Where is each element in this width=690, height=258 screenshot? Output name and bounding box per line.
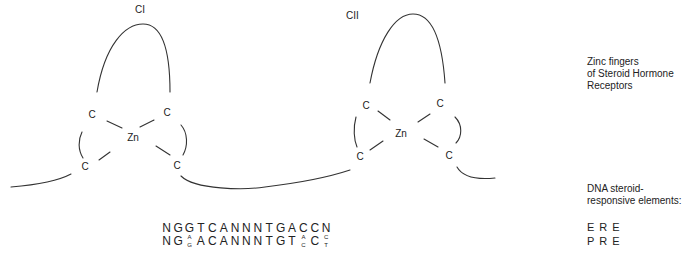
finger-ci-zinc: Zn	[127, 133, 139, 143]
sequence-pre: NGAGACANNNTGTACCCT	[161, 235, 332, 249]
base: N	[161, 222, 172, 234]
ambiguous-base: AG	[184, 234, 195, 248]
finger-cii-loop	[370, 14, 445, 83]
finger-cii-label: CII	[346, 11, 359, 21]
base: N	[229, 222, 240, 234]
element-tag-pre: PRE	[587, 236, 625, 247]
base: A	[218, 222, 229, 234]
ambiguous-base: AC	[298, 234, 309, 248]
base: N	[229, 235, 240, 247]
finger-cii-zinc: Zn	[395, 129, 407, 139]
base: N	[241, 235, 252, 247]
base: C	[298, 222, 309, 234]
base: G	[275, 222, 286, 234]
finger-ci-label: CI	[135, 5, 145, 15]
zinc-fingers-caption: Zinc fingers of Steroid Hormone Receptor…	[587, 56, 674, 92]
sequence-ere: NGGTCANNNTGACCN	[161, 222, 332, 234]
finger-cii-cysteine-2: C	[436, 99, 443, 109]
base: C	[309, 235, 320, 247]
finger-ci-cysteine-2: C	[163, 108, 170, 118]
base: N	[320, 222, 331, 234]
base: G	[184, 222, 195, 234]
base: C	[309, 222, 320, 234]
base: A	[218, 235, 229, 247]
finger-ci-cysteine-3: C	[81, 162, 88, 172]
base: T	[286, 235, 297, 247]
zinc-finger-diagram	[0, 0, 690, 258]
finger-cii-cysteine-3: C	[356, 152, 363, 162]
base: T	[195, 222, 206, 234]
base: A	[195, 235, 206, 247]
ambiguous-base: CT	[320, 234, 331, 248]
base: C	[207, 235, 218, 247]
finger-cii-cysteine-1: C	[362, 101, 369, 111]
dna-elements-caption: DNA steroid- responsive elements:	[587, 183, 682, 207]
linker-backbone	[181, 170, 350, 189]
finger-ci-cysteine-4: C	[173, 161, 180, 171]
base: N	[241, 222, 252, 234]
base: N	[252, 222, 263, 234]
base: T	[264, 235, 275, 247]
finger-ci-loop	[97, 24, 170, 92]
base: N	[161, 235, 172, 247]
base: N	[252, 235, 263, 247]
dna-backbone-left	[11, 174, 71, 187]
base: A	[286, 222, 297, 234]
base: T	[264, 222, 275, 234]
base: C	[207, 222, 218, 234]
base: G	[172, 235, 183, 247]
element-tag-ere: ERE	[587, 222, 625, 233]
finger-cii-cysteine-4: C	[445, 151, 452, 161]
finger-ci-cysteine-1: C	[88, 110, 95, 120]
base: G	[275, 235, 286, 247]
base: G	[172, 222, 183, 234]
dna-backbone-right	[457, 167, 495, 179]
